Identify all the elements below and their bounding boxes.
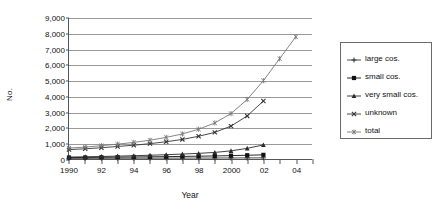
legend-item-very-small-cos[interactable]: very small cos. — [346, 85, 431, 103]
x-tick-label: 92 — [97, 166, 106, 175]
x-tick-mark — [313, 159, 314, 164]
data-point-marker — [261, 99, 265, 103]
x-tick-label: 02 — [260, 166, 269, 175]
x-tick-mark — [296, 159, 297, 164]
legend-label: large cos. — [365, 54, 400, 63]
data-point-marker — [352, 76, 356, 80]
series-line — [69, 37, 296, 148]
legend-label: very small cos. — [365, 90, 418, 99]
x-tick-label: 96 — [162, 166, 171, 175]
legend-item-total[interactable]: total — [346, 121, 431, 139]
legend-marker-icon — [346, 106, 362, 118]
y-tick-label: 3,000 — [45, 108, 65, 117]
y-tick-label: 4,000 — [45, 92, 65, 101]
x-axis-title: Year — [68, 190, 312, 200]
y-tick-label: 6,000 — [45, 61, 65, 70]
legend-item-unknown[interactable]: unknown — [346, 103, 431, 121]
legend-label: small cos. — [365, 72, 401, 81]
y-tick-label: 5,000 — [45, 77, 65, 86]
x-tick-label: 2000 — [223, 166, 241, 175]
legend-label: unknown — [365, 108, 397, 117]
data-point-marker — [245, 114, 249, 118]
y-tick-label: 8,000 — [45, 29, 65, 38]
x-tick-label: 94 — [130, 166, 139, 175]
y-tick-label: 9,000 — [45, 14, 65, 23]
legend-label: total — [365, 126, 380, 135]
legend-marker-icon — [346, 52, 362, 64]
data-point-marker — [294, 34, 298, 39]
y-tick-label: 2,000 — [45, 124, 65, 133]
data-point-marker — [261, 153, 265, 157]
y-tick-label: 0 — [61, 156, 65, 165]
chart-figure: No. 9,0008,0007,0006,0005,0004,0003,0002… — [0, 0, 446, 219]
legend-item-large-cos[interactable]: large cos. — [346, 49, 431, 67]
data-point-marker — [229, 124, 233, 128]
data-point-marker — [261, 78, 265, 83]
data-point-marker — [245, 97, 249, 102]
x-tick-label: 98 — [195, 166, 204, 175]
data-point-marker — [245, 153, 249, 157]
legend-marker-icon — [346, 124, 362, 136]
data-point-marker — [261, 142, 266, 147]
chart-legend: large cos.small cos.very small cos.unkno… — [340, 42, 432, 139]
legend-item-small-cos[interactable]: small cos. — [346, 67, 431, 85]
series-layer — [69, 18, 312, 159]
data-point-marker — [213, 120, 217, 125]
data-point-marker — [352, 58, 357, 63]
x-tick-label: 1990 — [60, 166, 78, 175]
x-tick-mark — [280, 159, 281, 164]
data-point-marker — [278, 56, 282, 61]
data-point-marker — [229, 111, 233, 116]
x-tick-label: 04 — [292, 166, 301, 175]
y-axis-title: No. — [2, 74, 16, 114]
data-point-marker — [229, 154, 233, 158]
legend-marker-icon — [346, 70, 362, 82]
y-tick-label: 7,000 — [45, 45, 65, 54]
legend-marker-icon — [346, 88, 362, 100]
y-tick-label: 1,000 — [45, 140, 65, 149]
plot-area: 9,0008,0007,0006,0005,0004,0003,0002,000… — [68, 18, 312, 160]
